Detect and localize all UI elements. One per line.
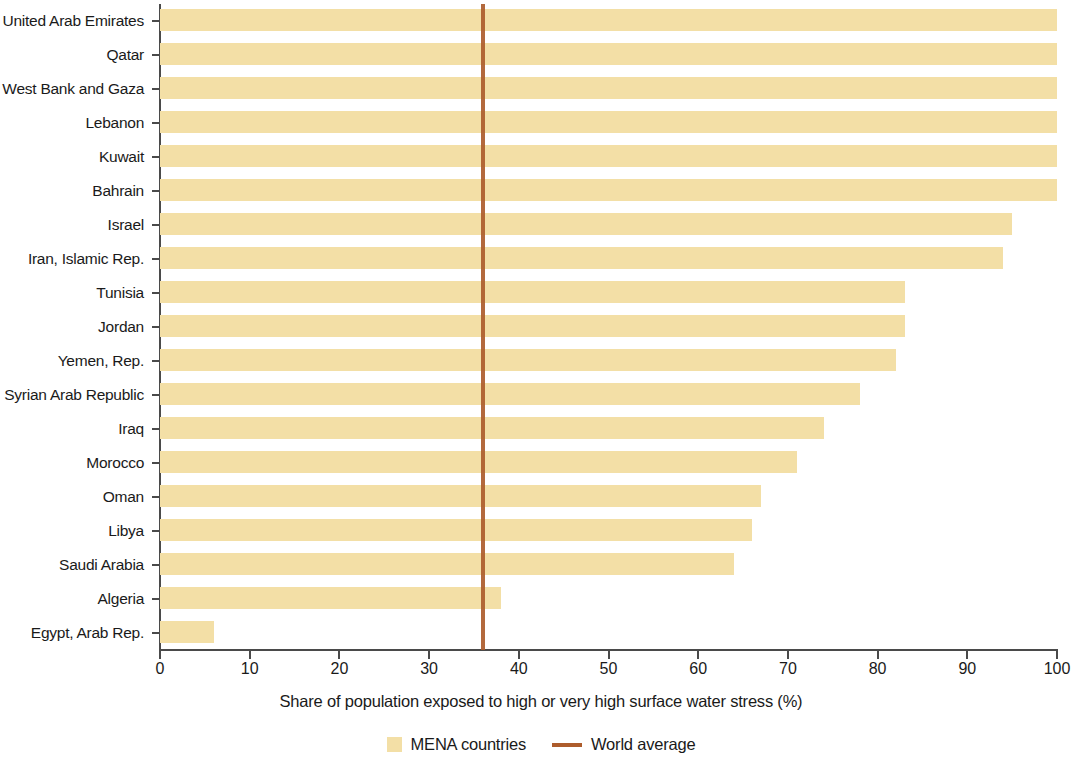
- y-axis-tick: [152, 54, 160, 56]
- category-label-kuwait: Kuwait: [0, 140, 152, 174]
- bar-row: West Bank and Gaza: [0, 72, 1082, 106]
- bar: [160, 383, 860, 405]
- category-label-iraq: Iraq: [0, 412, 152, 446]
- y-axis-tick: [152, 20, 160, 22]
- bar: [160, 587, 501, 609]
- category-label-algeria: Algeria: [0, 582, 152, 616]
- legend-swatch-icon: [387, 737, 402, 752]
- bar-row: Libya: [0, 514, 1082, 548]
- bar: [160, 43, 1057, 65]
- x-axis-tick: [159, 650, 161, 659]
- category-label-iran-islamic-rep: Iran, Islamic Rep.: [0, 242, 152, 276]
- category-label-qatar: Qatar: [0, 38, 152, 72]
- bar: [160, 417, 824, 439]
- bar-row: Bahrain: [0, 174, 1082, 208]
- category-label-united-arab-emirates: United Arab Emirates: [0, 4, 152, 38]
- y-axis-tick: [152, 224, 160, 226]
- category-label-egypt-arab-rep: Egypt, Arab Rep.: [0, 616, 152, 650]
- category-label-jordan: Jordan: [0, 310, 152, 344]
- bar-row: Qatar: [0, 38, 1082, 72]
- y-axis-tick: [152, 462, 160, 464]
- bar-row: Saudi Arabia: [0, 548, 1082, 582]
- legend-item-mena: MENA countries: [387, 735, 527, 754]
- y-axis-tick: [152, 530, 160, 532]
- bar-row: Lebanon: [0, 106, 1082, 140]
- x-axis-tick: [338, 650, 340, 659]
- bar-row: Jordan: [0, 310, 1082, 344]
- legend-line-icon: [552, 743, 582, 747]
- x-axis-tick-label: 0: [130, 660, 190, 678]
- x-axis-tick-label: 50: [579, 660, 639, 678]
- x-axis-tick: [428, 650, 430, 659]
- category-label-lebanon: Lebanon: [0, 106, 152, 140]
- y-axis-tick: [152, 88, 160, 90]
- bar-row: Oman: [0, 480, 1082, 514]
- y-axis-tick: [152, 496, 160, 498]
- x-axis-tick-label: 40: [489, 660, 549, 678]
- category-label-yemen-rep: Yemen, Rep.: [0, 344, 152, 378]
- category-label-west-bank-and-gaza: West Bank and Gaza: [0, 72, 152, 106]
- bar: [160, 145, 1057, 167]
- y-axis-tick: [152, 156, 160, 158]
- bar-row: Israel: [0, 208, 1082, 242]
- bar: [160, 553, 734, 575]
- world-average-line: [481, 4, 485, 650]
- x-axis-tick: [697, 650, 699, 659]
- bar: [160, 315, 905, 337]
- x-axis-tick-label: 20: [309, 660, 369, 678]
- x-axis-tick-label: 60: [668, 660, 728, 678]
- bar-row: Iran, Islamic Rep.: [0, 242, 1082, 276]
- x-axis-tick: [787, 650, 789, 659]
- x-axis-tick: [966, 650, 968, 659]
- category-label-bahrain: Bahrain: [0, 174, 152, 208]
- y-axis-tick: [152, 258, 160, 260]
- bar-row: Tunisia: [0, 276, 1082, 310]
- bar: [160, 77, 1057, 99]
- bar: [160, 9, 1057, 31]
- y-axis-tick: [152, 632, 160, 634]
- chart-legend: MENA countries World average: [0, 735, 1082, 754]
- bar-row: Algeria: [0, 582, 1082, 616]
- legend-item-world-average: World average: [552, 735, 695, 754]
- legend-label-world-average: World average: [591, 735, 695, 754]
- bar: [160, 213, 1012, 235]
- y-axis-tick: [152, 360, 160, 362]
- x-axis-tick-label: 30: [399, 660, 459, 678]
- bar: [160, 349, 896, 371]
- bar-row: Yemen, Rep.: [0, 344, 1082, 378]
- y-axis-tick: [152, 598, 160, 600]
- y-axis-tick: [152, 190, 160, 192]
- y-axis-tick: [152, 326, 160, 328]
- category-label-saudi-arabia: Saudi Arabia: [0, 548, 152, 582]
- category-label-tunisia: Tunisia: [0, 276, 152, 310]
- y-axis-tick: [152, 394, 160, 396]
- y-axis-tick: [152, 292, 160, 294]
- bar: [160, 485, 761, 507]
- x-axis-tick: [877, 650, 879, 659]
- y-axis-tick: [152, 564, 160, 566]
- category-label-libya: Libya: [0, 514, 152, 548]
- x-axis-tick: [518, 650, 520, 659]
- bar: [160, 621, 214, 643]
- bar: [160, 179, 1057, 201]
- bar: [160, 451, 797, 473]
- bar-row: Iraq: [0, 412, 1082, 446]
- x-axis-tick-label: 90: [937, 660, 997, 678]
- bar-row: Morocco: [0, 446, 1082, 480]
- category-label-morocco: Morocco: [0, 446, 152, 480]
- x-axis-tick-label: 80: [848, 660, 908, 678]
- bar: [160, 519, 752, 541]
- bar: [160, 111, 1057, 133]
- category-label-syrian-arab-republic: Syrian Arab Republic: [0, 378, 152, 412]
- y-axis-tick: [152, 122, 160, 124]
- x-axis-tick: [608, 650, 610, 659]
- x-axis-tick: [249, 650, 251, 659]
- category-label-israel: Israel: [0, 208, 152, 242]
- bar-row: Egypt, Arab Rep.: [0, 616, 1082, 650]
- y-axis-tick: [152, 428, 160, 430]
- bar-row: Syrian Arab Republic: [0, 378, 1082, 412]
- x-axis-tick-label: 70: [758, 660, 818, 678]
- bar: [160, 281, 905, 303]
- bar-row: United Arab Emirates: [0, 4, 1082, 38]
- bar-chart: United Arab EmiratesQatarWest Bank and G…: [0, 0, 1082, 757]
